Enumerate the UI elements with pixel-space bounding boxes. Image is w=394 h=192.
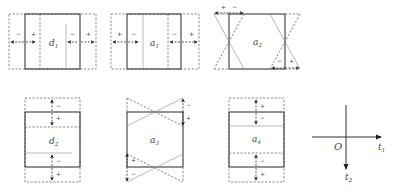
sign: + (289, 57, 294, 64)
sign: − (131, 30, 136, 37)
coordinate-axes: O t1 t2 (312, 105, 385, 183)
sign: − (56, 102, 61, 109)
panel-d2: − + − + d2 (25, 98, 80, 182)
sign: − (186, 101, 191, 108)
panel-label: a2 (253, 37, 262, 48)
sign: − (260, 114, 265, 121)
t2-label: t2 (345, 172, 353, 183)
sign: − (56, 157, 61, 164)
sign: − (277, 57, 282, 64)
sign: + (189, 30, 194, 37)
sign: + (260, 102, 265, 109)
sign: + (56, 114, 61, 121)
sign: − (260, 157, 265, 164)
panel-a1: + − − + a1 (111, 14, 199, 69)
sign: + (31, 30, 36, 37)
panel-label: a4 (252, 134, 261, 145)
panel-label: d2 (49, 136, 59, 147)
sign: − (131, 170, 136, 177)
panel-label: a1 (150, 38, 159, 49)
sign: − (70, 30, 75, 37)
sign: − (172, 30, 177, 37)
panel-a2: + − − + a2 (214, 3, 300, 69)
t1-label: t1 (378, 142, 385, 153)
deformation-modes-diagram: − + − + d1 + − − + a1 + (0, 0, 394, 192)
panel-a4: + − − + a4 (229, 98, 284, 182)
sign: − (16, 30, 21, 37)
sign: + (131, 156, 136, 163)
sign: + (186, 114, 191, 121)
sign: − (232, 3, 237, 10)
panel-label: a3 (150, 135, 159, 146)
sign: + (86, 30, 91, 37)
panel-d1: − + − + d1 (9, 14, 96, 69)
sign: + (56, 170, 61, 177)
sign: + (117, 30, 122, 37)
sign: + (221, 3, 226, 10)
origin-label: O (334, 141, 342, 152)
panel-a3: − + + − a3 (127, 98, 191, 182)
panel-label: d1 (49, 38, 58, 49)
sign: + (260, 170, 265, 177)
